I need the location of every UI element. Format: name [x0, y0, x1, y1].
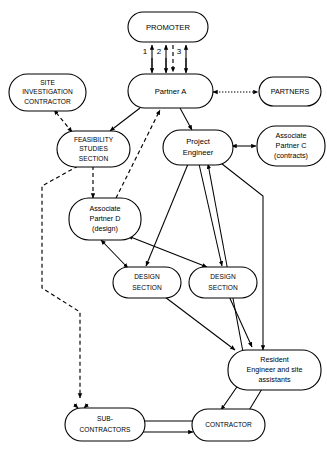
node-sub-contractors-label-line1: SUB-: [97, 415, 113, 422]
edge-feasibility-subcontractors: [42, 166, 80, 398]
node-design-section-2-label-line2: SECTION: [208, 284, 238, 291]
node-feasibility-label-line3: SECTION: [79, 155, 109, 162]
node-feasibility-label-line1: FEASIBILITY: [74, 136, 114, 143]
node-promoter[interactable]: PROMOTER: [128, 12, 208, 42]
edge-subcontractors-inflow-right: [84, 404, 88, 408]
flow-diagram: 1 2 3: [0, 0, 327, 449]
edge-partnerA-feasibility: [110, 108, 140, 131]
node-associate-partner-d-label-line2: Partner D: [90, 214, 121, 223]
node-sub-contractors[interactable]: SUB- CONTRACTORS: [65, 408, 145, 441]
channel-number-1: 1: [143, 47, 148, 56]
node-resident-engineer[interactable]: Resident Engineer and site assistants: [228, 350, 321, 390]
channel-number-2: 2: [157, 47, 162, 56]
node-project-engineer-label-line1: Project: [186, 137, 211, 146]
node-site-investigation-contractor[interactable]: SITE INVESTIGATION CONTRACTOR: [9, 74, 86, 111]
node-partners[interactable]: PARTNERS: [259, 77, 321, 106]
edge-partnerA-projectengineer: [180, 108, 192, 130]
node-resident-engineer-label-line3: assistants: [259, 375, 291, 384]
edge-feasibility-siteinvestigation: [54, 110, 72, 132]
node-design-section-2-shape: [189, 267, 257, 298]
node-design-section-1-shape: [113, 267, 181, 298]
node-partners-label: PARTNERS: [271, 87, 310, 96]
node-associate-partner-d[interactable]: Associate Partner D (design): [69, 198, 141, 240]
node-design-section-1-label-line1: DESIGN: [134, 273, 160, 280]
edge-associated-design2: [128, 236, 207, 267]
node-resident-engineer-label-line2: Engineer and site: [247, 365, 303, 374]
node-feasibility-studies-section[interactable]: FEASIBILITY STUDIES SECTION: [57, 131, 130, 167]
node-design-section-1[interactable]: DESIGN SECTION: [113, 267, 181, 298]
edge-projectengineer-design1: [146, 164, 188, 266]
node-site-investigation-label-line1: SITE: [40, 79, 55, 86]
node-design-section-2-label-line1: DESIGN: [210, 273, 236, 280]
node-associate-partner-d-label-line3: (design): [92, 224, 118, 233]
node-associate-partner-c-label-line3: (contracts): [274, 151, 308, 160]
node-project-engineer-label-line2: Engineer: [183, 148, 214, 157]
channel-number-3: 3: [177, 47, 182, 56]
node-associate-partner-c-label-line1: Associate: [275, 131, 306, 140]
node-contractor[interactable]: CONTRACTOR: [192, 409, 265, 441]
node-associate-partner-c-label-line2: Partner C: [276, 141, 307, 150]
diagram-canvas: 1 2 3: [0, 0, 327, 449]
edge-associated-design1: [101, 240, 128, 268]
node-sub-contractors-label-line2: CONTRACTORS: [80, 426, 131, 433]
node-site-investigation-label-line2: INVESTIGATION: [22, 88, 73, 95]
node-partner-a-label: Partner A: [155, 87, 188, 96]
edge-group-promoter-partnerA: 1 2 3: [143, 45, 186, 73]
edge-resident-projectengineer: [208, 164, 243, 352]
node-site-investigation-label-line3: CONTRACTOR: [24, 98, 71, 105]
node-contractor-label: CONTRACTOR: [205, 421, 252, 428]
edge-subcontractors-inflow-left: [74, 404, 78, 408]
node-design-section-1-label-line2: SECTION: [132, 284, 162, 291]
edge-design1-resident: [161, 294, 235, 350]
node-project-engineer[interactable]: Project Engineer: [163, 130, 233, 165]
node-partner-a[interactable]: Partner A: [128, 74, 213, 108]
node-promoter-label: PROMOTER: [146, 23, 190, 32]
node-associate-partner-d-label-line1: Associate: [89, 204, 120, 213]
node-design-section-2[interactable]: DESIGN SECTION: [189, 267, 257, 298]
node-resident-engineer-label-line1: Resident: [260, 355, 288, 364]
node-sub-contractors-shape: [65, 408, 145, 441]
node-associate-partner-c[interactable]: Associate Partner C (contracts): [257, 126, 325, 166]
node-feasibility-label-line2: STUDIES: [79, 145, 108, 152]
edge-design2-resident: [228, 294, 252, 347]
